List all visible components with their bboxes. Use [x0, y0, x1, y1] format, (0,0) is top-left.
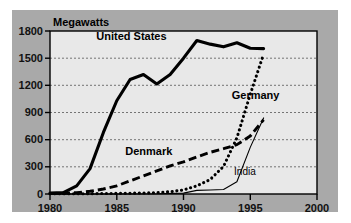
line-chart: 0 300 600 900 1200 1500 1800 1980 1985 1… — [0, 0, 351, 223]
y-tick-label-900: 900 — [25, 106, 43, 118]
y-tick-label-1500: 1500 — [19, 52, 43, 64]
series-label-united-states: United States — [96, 30, 166, 42]
x-tick-label-1980: 1980 — [38, 202, 62, 214]
x-axis-ticks — [50, 194, 317, 200]
x-tick-label-2000: 2000 — [305, 202, 329, 214]
y-tick-label-1800: 1800 — [19, 25, 43, 37]
chart-figure: 0 300 600 900 1200 1500 1800 1980 1985 1… — [0, 0, 351, 223]
series-label-india: India — [234, 166, 256, 177]
y-tick-label-300: 300 — [25, 160, 43, 172]
y-axis-ticks — [45, 31, 50, 194]
series-label-germany: Germany — [232, 89, 281, 101]
series-label-denmark: Denmark — [125, 145, 173, 157]
y-tick-label-600: 600 — [25, 133, 43, 145]
x-tick-label-1985: 1985 — [105, 202, 129, 214]
x-tick-label-1990: 1990 — [171, 202, 195, 214]
y-tick-label-0: 0 — [37, 188, 43, 200]
x-tick-label-1995: 1995 — [238, 202, 262, 214]
y-tick-label-1200: 1200 — [19, 79, 43, 91]
y-axis-label: Megawatts — [53, 16, 109, 28]
